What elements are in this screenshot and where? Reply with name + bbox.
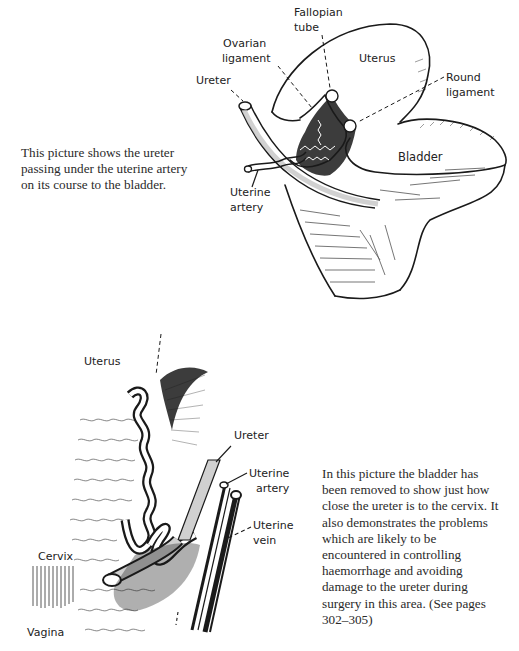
caption-line: damage to the ureter during bbox=[322, 579, 499, 595]
label-line: artery bbox=[248, 482, 289, 497]
caption-line: which are likely to be bbox=[322, 531, 499, 547]
caption-line: In this picture the bladder has bbox=[322, 466, 499, 482]
caption-line: been removed to show just how bbox=[322, 482, 499, 498]
label-line: Uterine bbox=[253, 519, 293, 534]
caption-line: surgery in this area. (See pages bbox=[322, 596, 499, 612]
label-ureter-bottom: Ureter bbox=[234, 429, 269, 444]
leader-uterine-artery-bottom bbox=[226, 473, 247, 484]
caption-line: encountered in controlling bbox=[322, 547, 499, 563]
leader-ureter-bottom bbox=[216, 446, 231, 462]
label-vagina: Vagina bbox=[27, 626, 64, 641]
leader-uterus-bottom bbox=[156, 334, 161, 375]
caption-bottom: In this picture the bladder has been rem… bbox=[322, 466, 499, 628]
label-uterus-bottom: Uterus bbox=[84, 355, 120, 370]
label-cervix: Cervix bbox=[38, 550, 73, 565]
label-uterine-artery-bottom: Uterine artery bbox=[248, 467, 289, 496]
caption-line: 302–305) bbox=[322, 612, 499, 628]
caption-line: haemorrhage and avoiding bbox=[322, 563, 499, 579]
label-line: vein bbox=[253, 534, 293, 549]
label-uterine-vein-bottom: Uterine vein bbox=[253, 519, 293, 548]
caption-line: also demonstrates the problems bbox=[322, 515, 499, 531]
caption-line: close the ureter is to the cervix. It bbox=[322, 498, 499, 514]
label-line: Uterine bbox=[248, 467, 289, 482]
